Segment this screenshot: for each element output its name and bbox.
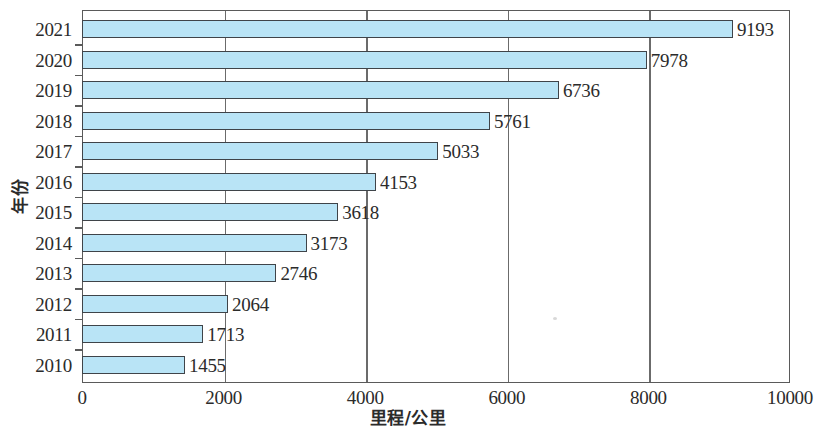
bar-row: 4153 [82, 167, 790, 198]
bar-value-2010: 1455 [189, 355, 226, 374]
bar-row: 2746 [82, 258, 790, 289]
ytick-label-2012: 2012 [35, 294, 72, 313]
bar-row: 2064 [82, 289, 790, 320]
xtick-label-8000: 8000 [630, 388, 667, 407]
bar-2012 [82, 295, 228, 313]
ytick-minor [75, 227, 82, 229]
ytick-minor [75, 197, 82, 199]
bar-chart: 9193 7978 6736 5761 5033 4153 3618 3173 [0, 0, 816, 429]
ytick-label-2015: 2015 [35, 203, 72, 222]
xtick-label-10000: 10000 [767, 388, 813, 407]
bar-value-2019: 6736 [563, 81, 600, 100]
bar-row: 1455 [82, 350, 790, 381]
bar-value-2021: 9193 [737, 20, 774, 39]
bar-value-2020: 7978 [651, 50, 688, 69]
ytick-label-2016: 2016 [35, 172, 72, 191]
bar-2013 [82, 264, 276, 282]
ytick-label-2017: 2017 [35, 142, 72, 161]
bar-value-2014: 3173 [311, 233, 348, 252]
ytick-minor [75, 44, 82, 46]
bar-2016 [82, 173, 376, 191]
bar-row: 9193 [82, 14, 790, 45]
ytick-minor [75, 258, 82, 260]
x-axis-title: 里程/公里 [0, 410, 816, 427]
bar-row: 6736 [82, 75, 790, 106]
scan-artifact [553, 317, 557, 320]
bar-2011 [82, 325, 203, 343]
bar-row: 5033 [82, 136, 790, 167]
y-axis-title: 年份 [12, 178, 29, 214]
bar-2020 [82, 51, 647, 69]
bar-value-2012: 2064 [232, 294, 269, 313]
bar-value-2011: 1713 [207, 325, 244, 344]
ytick-label-2011: 2011 [36, 325, 72, 344]
bar-row: 3618 [82, 197, 790, 228]
ytick-label-2019: 2019 [35, 81, 72, 100]
bar-2018 [82, 112, 490, 130]
ytick-minor [75, 288, 82, 290]
bar-2021 [82, 20, 733, 38]
xtick-label-0: 0 [77, 388, 86, 407]
bar-2015 [82, 203, 338, 221]
ytick-minor [75, 75, 82, 77]
bar-row: 1713 [82, 319, 790, 350]
bar-row: 3173 [82, 228, 790, 259]
xtick-label-6000: 6000 [488, 388, 525, 407]
ytick-label-2021: 2021 [35, 20, 72, 39]
ytick-label-2010: 2010 [35, 355, 72, 374]
ytick-label-2018: 2018 [35, 111, 72, 130]
bar-2019 [82, 81, 559, 99]
ytick-minor [75, 319, 82, 321]
bar-value-2015: 3618 [342, 203, 379, 222]
bar-2010 [82, 356, 185, 374]
xtick-label-4000: 4000 [347, 388, 384, 407]
bar-2014 [82, 234, 307, 252]
bar-value-2016: 4153 [380, 172, 417, 191]
ytick-label-2013: 2013 [35, 264, 72, 283]
ytick-minor [75, 105, 82, 107]
bar-2017 [82, 142, 438, 160]
ytick-label-2014: 2014 [35, 233, 72, 252]
bar-row: 5761 [82, 106, 790, 137]
xtick-label-2000: 2000 [205, 388, 242, 407]
ytick-minor [75, 166, 82, 168]
bar-value-2013: 2746 [280, 264, 317, 283]
bar-row: 7978 [82, 45, 790, 76]
ytick-minor [75, 136, 82, 138]
bar-value-2018: 5761 [494, 111, 531, 130]
bars-layer: 9193 7978 6736 5761 5033 4153 3618 3173 [82, 10, 790, 383]
ytick-label-2020: 2020 [35, 50, 72, 69]
bar-value-2017: 5033 [442, 142, 479, 161]
ytick-minor [75, 349, 82, 351]
